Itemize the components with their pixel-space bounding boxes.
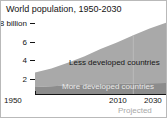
chart-figure: World population, 1950-2030 8 billion 6 … xyxy=(0,0,167,118)
series-label-more-developed: More developed countries xyxy=(62,82,154,92)
y-tick-8: 8 billion xyxy=(0,19,35,28)
x-axis-line xyxy=(35,94,166,95)
y-tick-6: 6 xyxy=(23,38,35,47)
y-tick-4: 4 xyxy=(23,56,35,65)
projected-annotation: Projected xyxy=(118,106,152,116)
y-tick-4-label: 4 xyxy=(23,56,27,65)
y-tick-2: 2 xyxy=(23,75,35,84)
x-tick-2030: 2030 xyxy=(144,96,162,106)
series-label-less-developed: Less developed countries xyxy=(69,58,160,68)
x-tick-1950: 1950 xyxy=(4,96,22,106)
x-tick-2010: 2010 xyxy=(109,96,127,106)
y-tick-2-label: 2 xyxy=(23,75,27,84)
y-tick-8-label: 8 billion xyxy=(0,19,27,28)
area-less-developed-countries xyxy=(35,23,166,87)
y-tick-6-label: 6 xyxy=(23,38,27,47)
